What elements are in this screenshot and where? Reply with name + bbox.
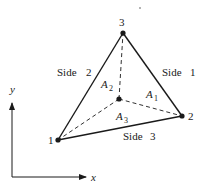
triangle-diagram: 1 2 3 Side 2 Side 1 Side 3 A 2 A 1 A 3 <box>0 0 203 188</box>
area-A3-label: A 3 <box>115 110 128 125</box>
svg-text:Side: Side <box>162 66 182 78</box>
svg-text:A: A <box>145 88 153 100</box>
vertex-2-label: 2 <box>188 110 194 122</box>
svg-text:1: 1 <box>154 94 158 103</box>
interior-point-dot <box>116 96 121 101</box>
side-3-label: Side 3 <box>123 130 156 142</box>
svg-text:3: 3 <box>124 116 128 125</box>
vertex-2-dot <box>179 113 184 118</box>
svg-text:3: 3 <box>150 130 156 142</box>
x-axis-label: x <box>90 171 96 183</box>
side-1-label: Side 1 <box>162 66 196 78</box>
svg-text:A: A <box>115 110 123 122</box>
y-axis-label: y <box>9 83 15 95</box>
vertex-3-label: 3 <box>119 16 125 28</box>
side-2-line <box>58 33 123 140</box>
vertex-1-dot <box>55 137 60 142</box>
svg-text:Side: Side <box>123 130 143 142</box>
speck-dot <box>139 7 141 9</box>
vertex-1-label: 1 <box>48 134 54 146</box>
svg-text:A: A <box>100 78 108 90</box>
area-A2-label: A 2 <box>100 78 113 93</box>
side-2-label: Side 2 <box>57 66 92 78</box>
vertex-3-dot <box>120 30 125 35</box>
svg-text:1: 1 <box>190 66 196 78</box>
svg-text:2: 2 <box>86 66 92 78</box>
svg-text:2: 2 <box>109 84 113 93</box>
dashed-line-to-3 <box>119 33 123 99</box>
area-A1-label: A 1 <box>145 88 158 103</box>
svg-text:Side: Side <box>57 66 77 78</box>
